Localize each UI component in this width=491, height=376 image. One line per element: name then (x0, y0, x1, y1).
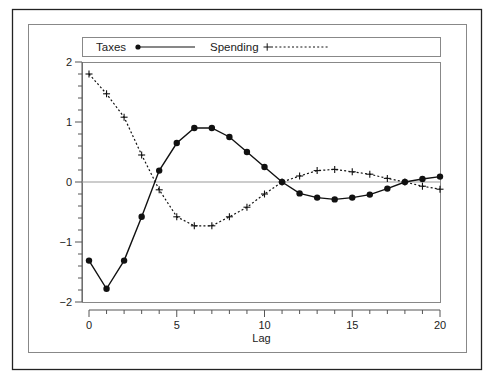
series-layer (86, 71, 444, 292)
series-taxes (86, 125, 443, 292)
data-point-plus-icon (261, 191, 268, 198)
series-spending (86, 71, 444, 230)
data-point-plus-icon (331, 166, 338, 173)
data-point-circle-icon (121, 257, 127, 263)
data-point-plus-icon (296, 173, 303, 180)
y-tick-label: 0 (66, 176, 72, 188)
x-tick-label: 20 (434, 319, 446, 331)
legend: Taxes Spending (83, 38, 441, 57)
series-line (89, 74, 440, 226)
data-point-plus-icon (384, 175, 391, 182)
data-point-plus-icon (349, 168, 356, 175)
data-point-circle-icon (244, 149, 250, 155)
data-point-circle-icon (296, 190, 302, 196)
y-tick-label: −1 (59, 236, 72, 248)
y-tick-label: 2 (66, 56, 72, 68)
data-point-circle-icon (86, 257, 92, 263)
data-point-plus-icon (138, 152, 145, 159)
data-point-circle-icon (103, 286, 109, 292)
data-point-circle-icon (367, 191, 373, 197)
x-axis: 05101520 (86, 310, 446, 331)
legend-label-spending: Spending (210, 41, 259, 53)
data-point-circle-icon (174, 140, 180, 146)
chart-figure: Taxes Spending −2−1012 05101520 Lag (0, 0, 491, 376)
data-point-circle-icon (349, 194, 355, 200)
data-point-plus-icon (366, 171, 373, 178)
data-point-plus-icon (419, 183, 426, 190)
data-point-circle-icon (156, 167, 162, 173)
data-point-circle-icon (191, 125, 197, 131)
x-axis-label: Lag (252, 332, 270, 344)
x-tick-label: 5 (174, 319, 180, 331)
plot-area: −2−1012 05101520 (59, 56, 446, 331)
data-point-plus-icon (208, 222, 215, 229)
data-point-circle-icon (209, 125, 215, 131)
data-point-plus-icon (191, 222, 198, 229)
data-point-plus-icon (401, 179, 408, 186)
data-point-circle-icon (314, 194, 320, 200)
data-point-plus-icon (226, 213, 233, 220)
data-point-circle-icon (332, 196, 338, 202)
data-point-plus-icon (437, 186, 444, 193)
data-point-circle-icon (437, 173, 443, 179)
data-point-circle-icon (226, 134, 232, 140)
data-point-circle-icon (138, 214, 144, 220)
data-point-plus-icon (173, 213, 180, 220)
data-point-circle-icon (261, 164, 267, 170)
data-point-circle-icon (419, 176, 425, 182)
y-axis: −2−1012 (59, 56, 82, 308)
data-point-circle-icon (384, 185, 390, 191)
y-tick-label: −2 (59, 296, 72, 308)
data-point-plus-icon (86, 71, 93, 78)
legend-label-taxes: Taxes (96, 41, 126, 53)
x-tick-label: 10 (258, 319, 270, 331)
inner-frame (29, 25, 467, 353)
y-tick-label: 1 (66, 116, 72, 128)
x-tick-label: 0 (86, 319, 92, 331)
data-point-plus-icon (156, 186, 163, 193)
data-point-plus-icon (314, 167, 321, 174)
x-tick-label: 15 (346, 319, 358, 331)
